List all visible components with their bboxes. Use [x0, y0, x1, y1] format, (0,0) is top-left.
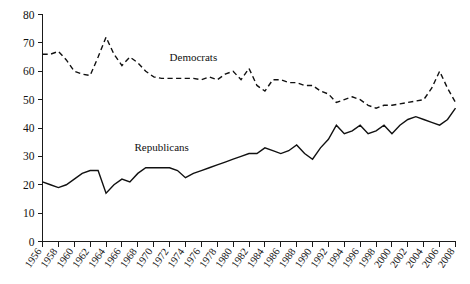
y-tick-label: 80 — [23, 9, 35, 21]
x-tick-label: 1958 — [38, 246, 59, 270]
data-series-group — [43, 37, 456, 193]
x-tick-label: 1970 — [134, 246, 155, 270]
series-label-republicans: Republicans — [134, 141, 188, 153]
x-tick-label: 1990 — [293, 246, 314, 270]
x-tick-label: 1956 — [23, 246, 44, 270]
x-tick-label: 1962 — [70, 246, 91, 270]
series-annotations: DemocratsRepublicans — [134, 51, 217, 152]
x-tick-label: 1960 — [54, 246, 75, 270]
series-line-republicans — [43, 108, 456, 193]
y-tick-label: 50 — [23, 94, 35, 106]
y-tick-label: 20 — [23, 179, 35, 191]
series-label-democrats: Democrats — [170, 51, 218, 63]
x-tick-label: 1972 — [150, 246, 171, 270]
x-tick-label: 2000 — [372, 246, 393, 270]
x-tick-label: 1980 — [213, 246, 234, 270]
series-line-democrats — [43, 37, 456, 108]
x-tick-label: 1976 — [181, 246, 202, 270]
x-tick-label: 1982 — [229, 246, 250, 270]
x-axis-tick-labels: 1956195819601962196419661968197019721974… — [23, 246, 457, 270]
y-tick-label: 10 — [23, 207, 35, 219]
x-tick-label: 2002 — [388, 246, 409, 270]
y-axis-ticks — [38, 15, 43, 242]
x-tick-label: 1992 — [308, 246, 329, 270]
chart-container: 01020304050607080 1956195819601962196419… — [0, 0, 470, 284]
line-chart: 01020304050607080 1956195819601962196419… — [0, 0, 470, 284]
y-axis-tick-labels: 01020304050607080 — [23, 9, 35, 248]
x-tick-label: 2006 — [420, 246, 441, 270]
y-tick-label: 60 — [23, 65, 35, 77]
y-tick-label: 40 — [23, 122, 35, 134]
x-axis-ticks — [43, 242, 456, 247]
x-tick-label: 1966 — [102, 246, 123, 270]
x-tick-label: 1986 — [261, 246, 282, 270]
x-tick-label: 1968 — [118, 246, 139, 270]
y-tick-label: 70 — [23, 37, 35, 49]
x-tick-label: 1978 — [197, 246, 218, 270]
x-tick-label: 1998 — [356, 246, 377, 270]
y-tick-label: 30 — [23, 150, 35, 162]
x-tick-label: 1996 — [340, 246, 361, 270]
x-tick-label: 1988 — [277, 246, 298, 270]
x-tick-label: 2008 — [436, 246, 457, 270]
